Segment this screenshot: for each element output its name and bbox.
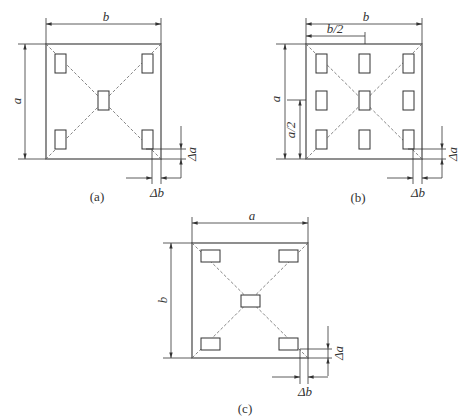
pad — [359, 130, 370, 149]
pad — [316, 54, 327, 73]
caption-b: (b) — [350, 190, 365, 205]
pad — [98, 91, 109, 110]
pad — [142, 54, 153, 73]
label-delta-b: Δb — [410, 185, 426, 200]
pad — [55, 130, 66, 149]
pad — [316, 91, 327, 110]
diagram-canvas: b a Δa Δb (a) — [0, 0, 474, 420]
figure-c: a b Δa Δb (c) — [155, 208, 346, 416]
pad — [279, 250, 298, 262]
label-a: a — [249, 208, 256, 223]
label-a: a — [268, 95, 283, 102]
label-delta-a: Δa — [184, 146, 199, 162]
pad — [55, 54, 66, 73]
label-delta-b: Δb — [297, 384, 313, 399]
pad — [359, 91, 370, 110]
label-b: b — [363, 9, 370, 24]
pad — [201, 338, 220, 350]
pad — [279, 338, 298, 350]
label-a: a — [9, 97, 24, 104]
pad — [241, 295, 260, 307]
label-delta-a: Δa — [331, 345, 346, 361]
label-delta-a: Δa — [445, 146, 460, 162]
caption-c: (c) — [238, 401, 252, 416]
figure-b: b b/2 a a/2 Δa Δb (b) — [268, 9, 460, 205]
label-b: b — [155, 296, 170, 303]
pad — [403, 91, 414, 110]
pad — [142, 130, 153, 149]
label-delta-b: Δb — [149, 185, 165, 200]
caption-a: (a) — [90, 189, 104, 204]
pad — [316, 130, 327, 149]
pad — [359, 54, 370, 73]
pad — [201, 250, 220, 262]
pad — [403, 54, 414, 73]
label-b: b — [103, 9, 110, 24]
label-b-half: b/2 — [327, 21, 344, 36]
pad — [403, 130, 414, 149]
figure-a: b a Δa Δb (a) — [9, 9, 199, 204]
label-a-half: a/2 — [283, 121, 298, 138]
